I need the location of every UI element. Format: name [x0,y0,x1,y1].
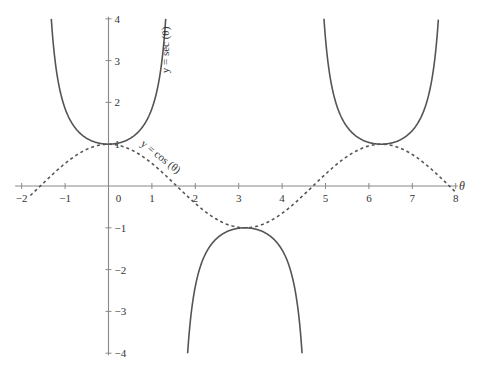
x-tick-label: 8 [453,192,459,204]
x-tick-label: 5 [323,192,329,204]
y-tick-label: −1 [115,222,127,234]
x-tick-label: 3 [236,192,242,204]
x-tick-label: 0 [116,192,122,204]
y-tick-label: 3 [115,55,121,67]
x-tick-label: 1 [149,192,155,204]
x-tick-label: −2 [16,192,28,204]
x-tick-label: 7 [410,192,416,204]
chart: −2−1012345678−4−3−2−11234 θ y = sec (θ) … [0,0,485,383]
x-tick-label: 6 [366,192,372,204]
sec-curve [324,19,438,144]
y-tick-label: 4 [115,13,121,25]
x-tick-label: −1 [59,192,71,204]
sec-curve [188,228,302,353]
cos-curve-label: y = cos (θ) [138,137,183,177]
axes: −2−1012345678−4−3−2−11234 [15,13,459,359]
y-tick-label: −3 [115,305,127,317]
y-tick-label: −2 [115,264,127,276]
y-tick-label: 2 [115,96,121,108]
x-tick-label: 4 [279,192,285,204]
y-tick-label: −4 [115,347,127,359]
x-axis-label: θ [459,179,465,193]
sec-curve-label: y = sec (θ) [159,26,172,73]
